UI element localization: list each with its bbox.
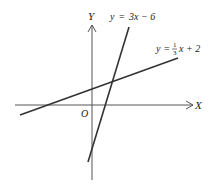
svg-text:y: y bbox=[155, 43, 161, 54]
fraction-denominator: 3 bbox=[173, 49, 177, 57]
origin-label: O bbox=[81, 108, 88, 119]
steep-line bbox=[88, 27, 129, 162]
steep-line-label: y = 3x − 6 bbox=[109, 11, 155, 22]
svg-text:x + 2: x + 2 bbox=[178, 43, 200, 54]
shallow-line bbox=[20, 58, 178, 115]
x-axis-label: X bbox=[194, 99, 203, 111]
shallow-line-label: y = 1 3 x + 2 bbox=[155, 41, 200, 57]
y-axis-label: Y bbox=[88, 10, 96, 22]
coordinate-diagram: X Y O y = 3x − 6 y = 1 3 x + 2 bbox=[0, 0, 209, 187]
svg-text:=: = bbox=[164, 43, 170, 54]
svg-text:y = 3x − 6: y = 3x − 6 bbox=[109, 11, 155, 22]
fraction-numerator: 1 bbox=[173, 41, 177, 49]
